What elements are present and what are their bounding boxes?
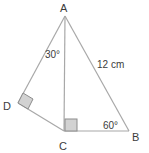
right-angle-mark-C [65, 119, 77, 131]
edge-AC [64, 16, 65, 131]
vertex-label-C: C [59, 140, 67, 152]
right-angle-mark-D [18, 93, 33, 109]
vertex-label-D: D [3, 100, 11, 112]
triangle-diagram: A D C B 30° 12 cm 60° [0, 0, 149, 153]
length-label-AB: 12 cm [97, 59, 124, 70]
vertex-label-A: A [60, 2, 68, 14]
vertex-label-B: B [132, 131, 139, 143]
angle-label-30: 30° [45, 49, 60, 60]
edge-AB [65, 16, 129, 131]
angle-label-60: 60° [103, 120, 118, 131]
